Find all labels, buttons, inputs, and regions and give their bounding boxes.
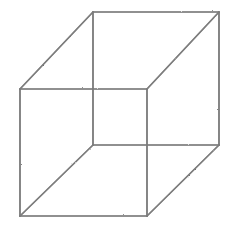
necker-cube-figure bbox=[0, 0, 234, 232]
necker-cube-drawing bbox=[0, 0, 234, 232]
paper-background bbox=[0, 0, 234, 232]
